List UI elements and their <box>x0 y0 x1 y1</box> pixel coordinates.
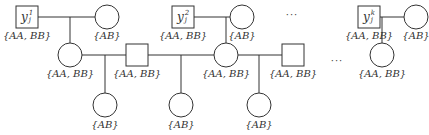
offspring-square-s1 <box>126 44 148 66</box>
genotype-label-c1: {AA, BB} <box>46 69 94 79</box>
offspring-circle-c1 <box>58 43 82 67</box>
genotype-label-yk: {AA, BB} <box>345 31 393 41</box>
genotype-label-m1: {AB} <box>93 31 120 41</box>
genotype-label-y1: {AA, BB} <box>3 31 51 41</box>
genotype-label-s2: {AA, BB} <box>269 69 317 79</box>
genotype-label-y2: {AA, BB} <box>159 31 207 41</box>
grandchild-circle-g3 <box>247 93 271 117</box>
founder-symbol-y2: y2j <box>177 10 189 23</box>
grandchild-circle-g1 <box>93 93 117 117</box>
genotype-label-s1: {AA, BB} <box>113 69 161 79</box>
grandchild-circle-g2 <box>169 93 193 117</box>
genotype-label-g3: {AB} <box>245 120 272 130</box>
genotype-label-m2: {AB} <box>228 31 255 41</box>
genotype-label-ck: {AA, BB} <box>358 69 406 79</box>
mate-circle-k <box>404 5 428 29</box>
genotype-label-mk: {AB} <box>402 31 429 41</box>
offspring-square-s2 <box>282 44 304 66</box>
ellipsis-row2: ··· <box>331 55 344 66</box>
offspring-circle-c2 <box>214 43 238 67</box>
genotype-label-c2: {AA, BB} <box>202 69 250 79</box>
founder-symbol-y1: y1j <box>21 10 33 23</box>
genotype-label-g2: {AB} <box>167 120 194 130</box>
genotype-label-g1: {AB} <box>91 120 118 130</box>
offspring-circle-ck <box>370 43 394 67</box>
ellipsis-row1: ··· <box>286 9 299 20</box>
mate-circle-2 <box>230 5 254 29</box>
founder-symbol-yk: ykj <box>363 10 375 23</box>
mate-circle-1 <box>95 5 119 29</box>
